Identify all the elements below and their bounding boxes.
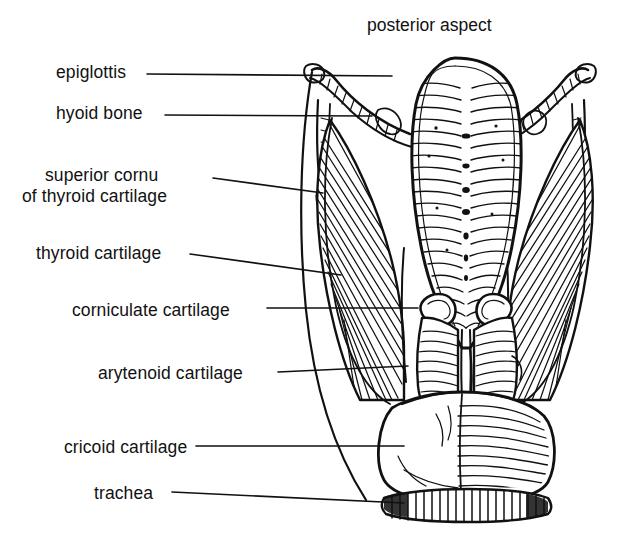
label-superior-cornu-line2: of thyroid cartilage <box>22 186 167 207</box>
cricoid-cartilage <box>378 392 554 502</box>
label-thyroid-cartilage: thyroid cartilage <box>36 243 161 264</box>
label-corniculate-cartilage: corniculate cartilage <box>72 300 230 321</box>
leader-trachea <box>172 492 404 503</box>
label-epiglottis: epiglottis <box>56 62 126 83</box>
label-arytenoid-cartilage: arytenoid cartilage <box>98 363 243 384</box>
leader-thyroid-cartilage <box>190 254 341 275</box>
leader-epiglottis <box>147 74 392 76</box>
figure-canvas: posterior aspect epiglottis hyoid bone s… <box>0 0 624 536</box>
leader-superior-cornu <box>213 178 323 193</box>
lesser-horn-right <box>523 111 546 135</box>
label-cricoid-cartilage: cricoid cartilage <box>64 437 187 458</box>
trachea <box>382 489 551 522</box>
leader-hyoid-bone <box>165 115 372 116</box>
label-trachea: trachea <box>94 483 153 504</box>
label-hyoid-bone: hyoid bone <box>56 103 143 124</box>
label-superior-cornu-line1: superior cornu <box>45 165 158 186</box>
figure-title: posterior aspect <box>367 15 492 36</box>
thyroid-cartilage-left <box>317 114 404 404</box>
